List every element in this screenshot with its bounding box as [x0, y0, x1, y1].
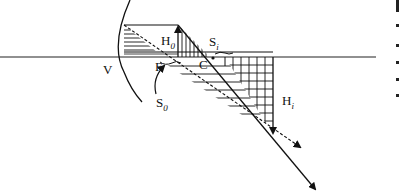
center-of-curvature-label: C	[199, 58, 208, 71]
focal-point-label: F	[155, 60, 162, 73]
ray-diagram: V F C H0 Hi S0 Si	[0, 0, 399, 192]
reflected-ray	[178, 25, 315, 189]
concave-mirror	[118, 0, 142, 102]
image-height-label: Hi	[282, 94, 294, 111]
diagram-canvas	[0, 0, 399, 192]
object-height-label: H0	[161, 34, 175, 51]
image-distance-label: Si	[209, 35, 219, 52]
object-distance-label: S0	[156, 96, 168, 113]
vertex-label: V	[103, 63, 112, 76]
center-of-curvature-dot	[211, 56, 214, 59]
